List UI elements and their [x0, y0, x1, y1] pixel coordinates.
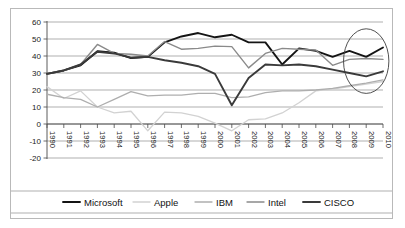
- y-tick-labels: 6050403020100-10-20: [29, 18, 41, 163]
- x-tick-label: 2001: [233, 131, 242, 148]
- legend-label-apple: Apple: [154, 197, 178, 208]
- x-tick-label: 1992: [82, 131, 91, 148]
- y-tick-label: 60: [32, 18, 41, 27]
- y-tick-label: 0: [37, 120, 42, 129]
- legend-label-microsoft: Microsoft: [84, 197, 123, 208]
- x-axis: [47, 124, 383, 128]
- y-tick-label: 50: [32, 35, 41, 44]
- x-tick-label: 1996: [149, 131, 158, 148]
- x-tick-label: 1999: [199, 131, 208, 148]
- x-tick-label: 2005: [300, 131, 309, 148]
- x-tick-label: 1994: [115, 131, 124, 148]
- y-axis: [44, 21, 48, 159]
- x-tick-label: 1995: [132, 131, 141, 148]
- series-line-ibm: [47, 80, 383, 107]
- x-tick-label: 2008: [350, 131, 359, 148]
- line-chart: 6050403020100-10-20 19901991199219931994…: [0, 0, 405, 228]
- x-tick-label: 2002: [250, 131, 259, 148]
- chart-legend: MicrosoftAppleIBMIntelCISCO: [11, 191, 392, 213]
- x-tick-label: 1997: [166, 131, 175, 148]
- y-tick-label: -20: [29, 154, 41, 163]
- gridlines: [47, 22, 383, 158]
- x-tick-label: 1991: [65, 131, 74, 148]
- y-tick-label: 40: [32, 52, 41, 61]
- x-tick-label: 2000: [216, 131, 225, 148]
- legend-label-cisco: CISCO: [324, 197, 354, 208]
- data-series: [47, 33, 383, 131]
- legend-label-intel: Intel: [268, 197, 286, 208]
- x-tick-label: 2010: [384, 131, 393, 148]
- x-tick-label: 2007: [334, 131, 343, 148]
- y-tick-label: 10: [32, 103, 41, 112]
- screenshot-root: 6050403020100-10-20 19901991199219931994…: [0, 0, 405, 228]
- x-tick-label: 1998: [182, 131, 191, 148]
- x-tick-label: 1990: [48, 131, 57, 148]
- x-tick-label: 2003: [266, 131, 275, 148]
- series-line-cisco: [47, 52, 383, 106]
- x-tick-label: 2006: [317, 131, 326, 148]
- y-tick-label: -10: [29, 137, 41, 146]
- y-tick-label: 30: [32, 69, 41, 78]
- y-tick-label: 20: [32, 86, 41, 95]
- legend-label-ibm: IBM: [216, 197, 233, 208]
- x-tick-labels: 1990199119921993199419951996199719981999…: [48, 131, 393, 148]
- x-tick-label: 1993: [98, 131, 107, 148]
- x-tick-label: 2004: [283, 131, 292, 148]
- x-tick-label: 2009: [367, 131, 376, 148]
